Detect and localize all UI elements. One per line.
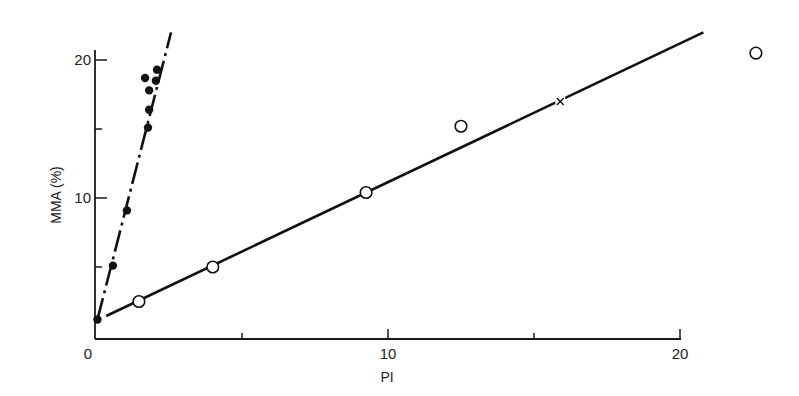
open-circle-marker — [360, 187, 372, 199]
fit-lines — [97, 32, 703, 319]
filled-circle-marker — [145, 105, 153, 113]
y-tick-label: 20 — [74, 51, 91, 68]
open-circle-marker — [750, 47, 762, 59]
filled-circle-marker — [152, 77, 160, 85]
x-tick-label: 20 — [672, 345, 689, 362]
open-circle-marker — [455, 120, 467, 132]
data-points — [93, 47, 761, 323]
filled-circle-marker — [145, 86, 153, 94]
open-circle-marker — [133, 296, 145, 308]
x-tick-label: 0 — [84, 345, 92, 362]
filled-circle-marker — [109, 261, 117, 269]
chart: 010201020 PI MMA (%) — [0, 0, 799, 396]
axes: 010201020 — [74, 50, 688, 362]
filled-circles-fit-line — [97, 32, 171, 319]
x-axis-label: PI — [380, 369, 393, 385]
y-tick-label: 10 — [74, 189, 91, 206]
x-tick-label: 10 — [380, 345, 397, 362]
open-circle-marker — [207, 261, 219, 273]
filled-circle-marker — [153, 65, 161, 73]
open-circles-fit-line — [106, 32, 703, 316]
filled-circle-marker — [123, 206, 131, 214]
filled-circle-marker — [93, 315, 101, 323]
filled-circle-marker — [141, 74, 149, 82]
filled-circle-marker — [144, 123, 152, 131]
y-axis-label: MMA (%) — [48, 166, 64, 224]
